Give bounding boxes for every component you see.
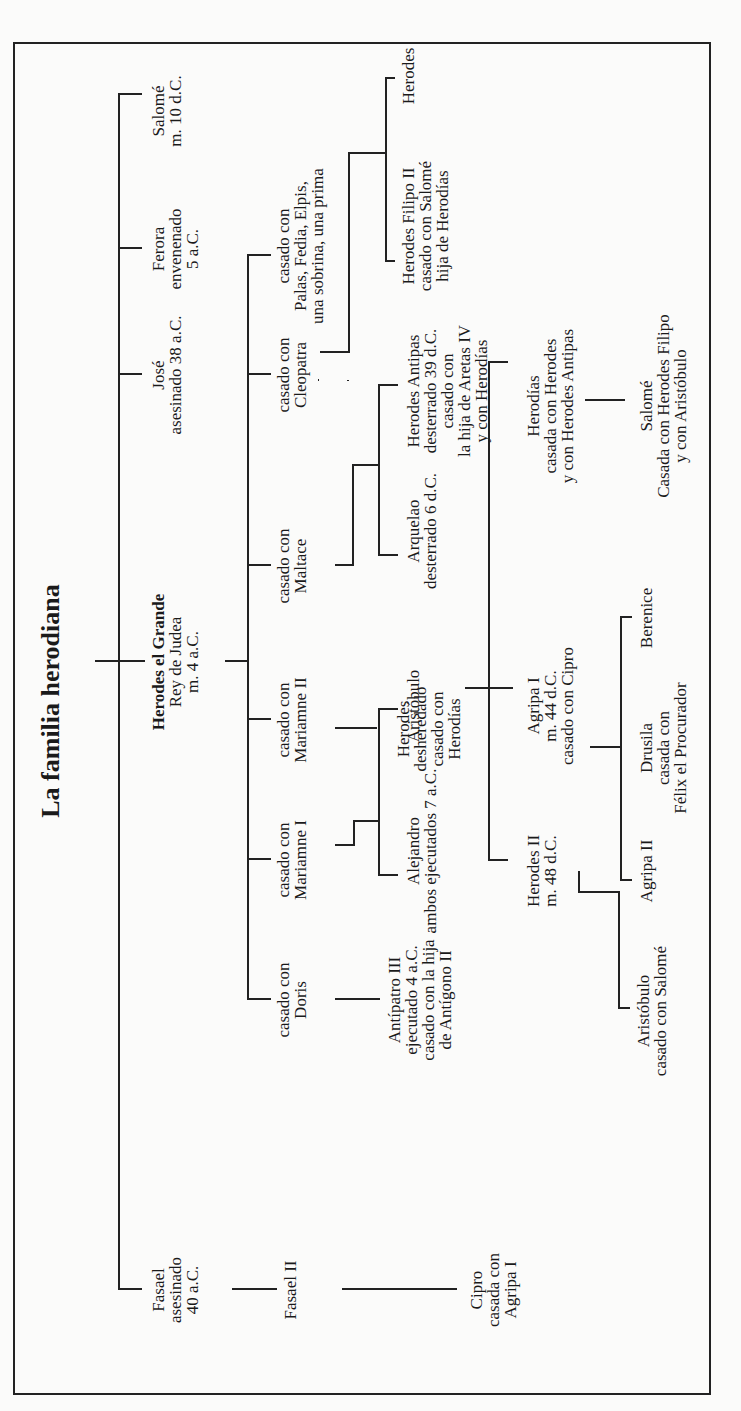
connector (225, 660, 247, 662)
connector (618, 1007, 630, 1009)
node-arquelao: Arquelaodesterrado 6 d.C. (405, 473, 439, 589)
connector (590, 746, 620, 748)
connector (247, 858, 271, 860)
connector (335, 564, 353, 566)
node-herodes-el-grande: Herodes el GrandeRey de Judeam. 4 a.C. (150, 594, 201, 731)
connector (335, 844, 353, 846)
connector (342, 1288, 457, 1290)
connector (385, 260, 395, 262)
node-herodes-antipas: Herodes Antipasdesterrado 39 d.C.casado … (405, 325, 490, 457)
node-ferora: Feroraenvenenado5 a.C. (150, 208, 201, 289)
connector (578, 871, 580, 891)
wife-others: casado conPalas, Fedia, Elpis,una sobrin… (275, 168, 326, 324)
node-fasael-2: Fasael II (282, 1260, 299, 1319)
connector (620, 616, 632, 618)
node-alejandro: Alejandroambos ejecutados 7 a.C. (405, 769, 439, 934)
node-fasael: Fasaelasesinado40 a.C. (150, 1257, 201, 1323)
node-aristobulo-jr: Aristóbulocasado con Salomé (635, 946, 669, 1076)
node-herodes-2: Herodes IIm. 48 d.C. (525, 835, 559, 907)
wife-mariamne-2: casado conMariamne II (275, 677, 309, 762)
wife-doris: casado conDoris (275, 962, 309, 1037)
connector (318, 379, 319, 381)
connector (118, 247, 142, 249)
siblings-bracket (118, 93, 120, 1290)
connector (232, 1288, 277, 1290)
children-bracket (620, 616, 622, 881)
connector (118, 93, 142, 95)
connector (620, 879, 632, 881)
connector (585, 399, 625, 401)
connector (95, 660, 145, 662)
wife-cleopatra: casado conCleopatra (275, 337, 309, 412)
node-agripa-2: Agripa II (638, 840, 655, 903)
connector (247, 373, 271, 375)
sons-bracket (378, 384, 380, 556)
wives-bracket (247, 255, 249, 1000)
node-salome-sister: Salomém. 10 d.C. (150, 75, 184, 146)
connector (335, 727, 377, 729)
node-antipatro-3: Antípatro IIIejecutado 4 a.C.casado con … (386, 939, 454, 1060)
diagram-title: La familia herodiana (36, 551, 66, 851)
wife-maltace: casado conMaltace (275, 528, 309, 603)
connector (247, 564, 271, 566)
node-salome-jr: SaloméCasada con Herodes Filipoy con Ari… (638, 314, 689, 498)
connector (378, 384, 398, 386)
node-herodes-desheredado: Herodesdesheredadocasado conHerodías (395, 687, 463, 772)
connector (618, 891, 620, 1009)
connector (118, 1288, 142, 1290)
node-drusila: Drusilacasada conFélix el Procurador (638, 682, 689, 813)
connector (378, 554, 398, 556)
connector (353, 820, 378, 822)
sons-bracket (378, 708, 380, 876)
connector (488, 361, 508, 363)
node-agripa-1: Agripa Im. 44 d.C.casado con Cipro (525, 647, 576, 765)
connector (335, 998, 380, 1000)
connector (385, 77, 395, 79)
connector (352, 466, 354, 566)
sons-bracket (385, 77, 387, 262)
connector (352, 464, 378, 466)
grandchildren-bracket (488, 361, 490, 861)
node-cipro: Ciprocasada conAgripa I (468, 1253, 519, 1327)
connector (247, 998, 271, 1000)
node-berenice: Berenice (638, 588, 655, 648)
node-jose: Joséasesinado 38 a.C. (150, 316, 184, 435)
connector (247, 254, 271, 256)
connector (488, 859, 508, 861)
connector (118, 373, 142, 375)
connector (378, 874, 398, 876)
connector (247, 718, 271, 720)
node-herodes-filipo-2: Herodes Filipo IIcasado con Saloméhija d… (400, 161, 451, 291)
connector (578, 891, 618, 893)
herodian-family-tree: La familia herodiana Fasaelasesinado40 a… (0, 0, 741, 1411)
connector (347, 380, 349, 381)
node-herodes-son-cleopatra: Herodes (400, 48, 417, 105)
connector (348, 153, 350, 353)
wife-mariamne-1: casado conMariamne I (275, 820, 309, 900)
connector (353, 822, 355, 846)
node-herodias: Herodíascasada con Herodesy con Herodes … (525, 329, 576, 483)
connector (348, 152, 385, 154)
connector (320, 351, 348, 353)
